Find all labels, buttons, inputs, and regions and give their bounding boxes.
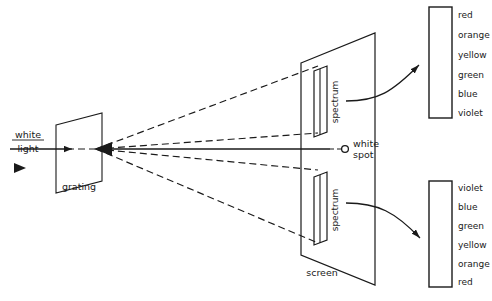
white-light-label-line1: white	[15, 129, 41, 140]
optics-diagram-svg: grating white light screen spectrum spec…	[0, 0, 492, 301]
ray-lower-inner	[96, 149, 318, 170]
upper-color-0: red	[458, 10, 473, 20]
lower-color-list: violet blue green yellow orange red	[458, 183, 490, 287]
upper-spectrum-band-group	[314, 66, 327, 137]
lower-color-5: red	[458, 277, 473, 287]
lower-spectrum-band-group	[314, 172, 327, 245]
white-spot-marker	[342, 146, 349, 153]
ray-upper-outer	[96, 66, 318, 149]
white-light-label-line2: light	[17, 143, 38, 154]
callout-arrow-upper	[346, 65, 419, 101]
upper-color-strip	[429, 7, 452, 118]
direction-marker-triangle	[14, 163, 26, 173]
upper-color-3: green	[458, 70, 484, 80]
ray-upper-inner	[96, 133, 318, 149]
diagram-canvas: grating white light screen spectrum spec…	[0, 0, 492, 301]
lower-color-3: yellow	[458, 240, 487, 250]
white-spot-label-line1: white	[353, 138, 379, 149]
callout-arrow-lower	[346, 203, 420, 238]
grating-label: grating	[62, 181, 96, 192]
lower-color-0: violet	[458, 183, 483, 193]
lower-color-4: orange	[458, 259, 490, 269]
upper-spectrum-label: spectrum	[330, 81, 340, 124]
lower-color-strip	[429, 181, 452, 287]
ray-lower-outer	[96, 149, 318, 243]
lower-color-2: green	[458, 221, 484, 231]
screen-label: screen	[306, 267, 338, 278]
lower-spectrum-label: spectrum	[330, 189, 340, 232]
upper-color-5: violet	[458, 108, 483, 118]
upper-color-1: orange	[458, 30, 490, 40]
upper-color-4: blue	[458, 89, 478, 99]
lower-color-1: blue	[458, 202, 478, 212]
grating-vertex-arrowhead	[94, 142, 112, 156]
white-spot-label-line2: spot	[353, 149, 374, 160]
upper-color-list: red orange yellow green blue violet	[458, 10, 490, 118]
upper-color-2: yellow	[458, 50, 487, 60]
